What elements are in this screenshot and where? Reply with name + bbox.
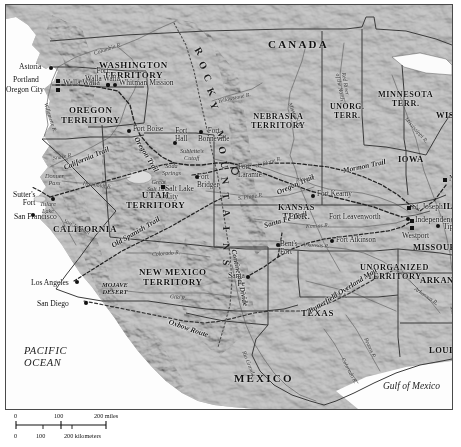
fort-marker-bent-s-fort <box>276 243 280 247</box>
city-marker-san-diego <box>84 301 88 305</box>
city-marker-los-angeles <box>75 280 79 284</box>
fort-marker-fort-leavenworth <box>406 217 410 221</box>
city-marker-astoria <box>49 66 53 70</box>
scale-miles-200: 200 miles <box>94 412 118 419</box>
city-marker-portland <box>56 79 60 83</box>
city-marker-tipton <box>436 224 440 228</box>
fort-marker-fort-atkinson <box>330 239 334 243</box>
city-marker-sutter-s-fort <box>51 197 55 201</box>
fort-marker-fort-bonneville <box>199 130 203 134</box>
fort-marker-fort-kearny <box>311 194 315 198</box>
scale-bar: 0 100 200 miles 0 100 200 kilometers <box>14 412 134 442</box>
fort-marker-fort-bridger <box>195 175 199 179</box>
city-marker-independence <box>410 219 414 223</box>
map-frame: CANADAMEXICOWASHINGTON TERRITORYOREGON T… <box>5 4 453 410</box>
city-marker-san-francisco <box>31 213 35 217</box>
scale-km-100: 100 <box>36 432 45 439</box>
map-graphic <box>6 5 452 409</box>
city-marker-oregon-city <box>56 88 60 92</box>
scale-miles-0: 0 <box>14 412 17 419</box>
scale-miles-100: 100 <box>54 412 63 419</box>
scale-km-0: 0 <box>14 432 17 439</box>
fort-marker-fort-hall <box>173 141 177 145</box>
city-marker-nauvoo <box>443 178 447 182</box>
city-marker-salt-lake-city <box>161 185 165 189</box>
city-marker-st-joseph <box>407 206 411 210</box>
city-marker-santa-fe <box>246 275 250 279</box>
map-page: CANADAMEXICOWASHINGTON TERRITORYOREGON T… <box>0 0 461 447</box>
fort-marker-fort-boise <box>127 129 131 133</box>
fort-marker-fort-walla-walla <box>106 83 110 87</box>
fort-marker-fort-laramie <box>231 167 239 175</box>
city-marker-whitman-mission <box>113 83 117 87</box>
scale-km-200: 200 kilometers <box>64 432 101 439</box>
city-marker-westport <box>410 226 414 230</box>
